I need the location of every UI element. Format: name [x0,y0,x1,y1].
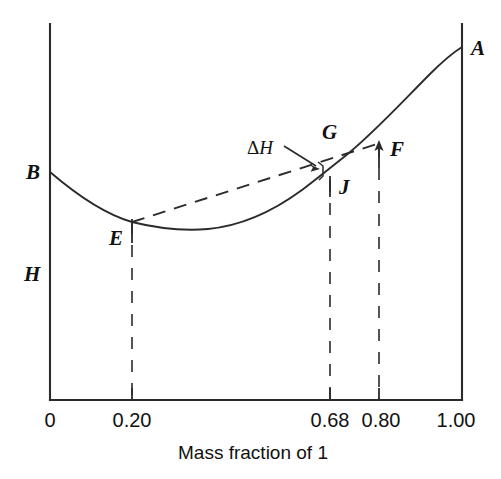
x-tick-label-0: 0 [44,410,55,430]
x-tick-label-100: 1.00 [437,410,476,430]
point-label-G: G [322,122,337,143]
point-label-J: J [339,177,350,198]
x-axis-title: Mass fraction of 1 [178,443,328,462]
point-label-A: A [471,38,485,59]
x-tick-label-080: 0.80 [362,410,401,430]
delta-h-enthalpy-symbol: H [259,137,273,158]
chart-plot-area [0,0,501,479]
axis-symbol-H: H [24,264,40,285]
delta-h-arrow-shaft [284,146,316,166]
enthalpy-concentration-chart: A B E F G H J ΔH 0 0.20 0.68 0.80 1.00 M… [0,0,501,479]
x-tick-label-020: 0.20 [113,410,152,430]
point-label-E: E [109,228,123,249]
point-label-F: F [390,139,404,160]
delta-symbol: Δ [247,137,259,158]
point-label-B: B [26,162,40,183]
delta-h-label: ΔH [247,138,273,157]
x-tick-label-068: 0.68 [311,410,350,430]
